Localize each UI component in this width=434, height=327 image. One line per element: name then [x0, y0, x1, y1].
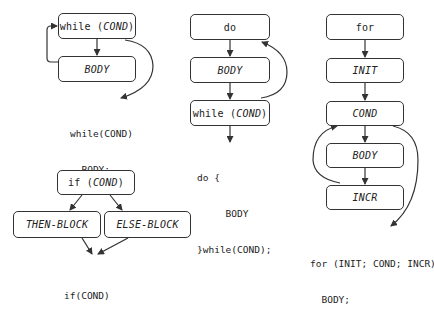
for-cond-node: COND [326, 101, 404, 126]
for-incr-node: INCR [326, 185, 404, 210]
do-node: do [190, 14, 270, 40]
do-body-node: BODY [190, 57, 270, 83]
else-block-node: ELSE-BLOCK [104, 211, 191, 238]
for-body-node: BODY [326, 143, 404, 168]
for-node: for [326, 14, 404, 40]
if-else-code: if(COND) THEN-BLOCK; else ELSE-BLOCK; [64, 266, 138, 327]
do-while-code: do { BODY }while(COND); [197, 148, 271, 268]
then-block-node: THEN-BLOCK [13, 211, 101, 238]
if-cond-node: if (COND) [57, 170, 135, 195]
while-cond-node: while (COND) [58, 13, 136, 39]
cond-label: COND [103, 21, 128, 32]
while-body-node: BODY [58, 56, 136, 82]
while-keyword: while [60, 21, 91, 32]
do-while-cond-node: while (COND) [190, 100, 270, 126]
for-init-node: INIT [326, 58, 404, 83]
for-code: for (INIT; COND; INCR) BODY; [310, 234, 434, 318]
